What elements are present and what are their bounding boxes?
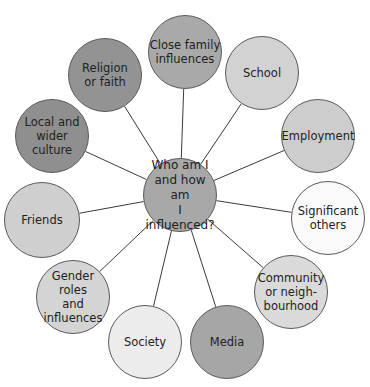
node-label: Local and wider culture: [16, 115, 88, 157]
influence-diagram: Who am I and how am I influenced? Close …: [0, 0, 370, 387]
node-local-culture: Local and wider culture: [15, 99, 89, 173]
connector-line: [201, 104, 242, 165]
node-label: Significant others: [298, 204, 359, 232]
node-community: Community or neigh- bourhood: [254, 255, 328, 329]
node-employment: Employment: [281, 99, 355, 173]
connector-line: [154, 231, 172, 306]
connector-line: [125, 106, 161, 163]
node-religion: Religion or faith: [68, 38, 142, 112]
connector-line: [79, 202, 143, 214]
connector-line: [86, 151, 147, 179]
center-node: Who am I and how am I influenced?: [143, 158, 217, 232]
node-label: Community or neigh- bourhood: [258, 271, 325, 313]
node-label: Society: [124, 335, 166, 349]
node-close-family: Close family influences: [148, 15, 222, 89]
connector-line: [191, 230, 215, 307]
node-label: Media: [210, 335, 245, 349]
node-media: Media: [190, 305, 264, 379]
node-significant-others: Significant others: [291, 181, 365, 255]
node-label: Employment: [282, 129, 355, 143]
node-friends: Friends: [4, 182, 80, 258]
node-label: Close family influences: [150, 38, 220, 66]
connector-line: [214, 151, 284, 181]
node-label: School: [243, 66, 281, 80]
node-label: Religion or faith: [82, 61, 128, 89]
node-label: Friends: [21, 213, 62, 227]
connector-line: [208, 219, 263, 267]
connector-line: [217, 201, 292, 213]
node-school: School: [225, 36, 299, 110]
node-gender-roles: Gender roles and influences: [36, 260, 110, 334]
center-label: Who am I and how am I influenced?: [144, 158, 216, 233]
connector-line: [181, 89, 183, 158]
node-label: Gender roles and influences: [37, 269, 109, 325]
node-society: Society: [108, 305, 182, 379]
